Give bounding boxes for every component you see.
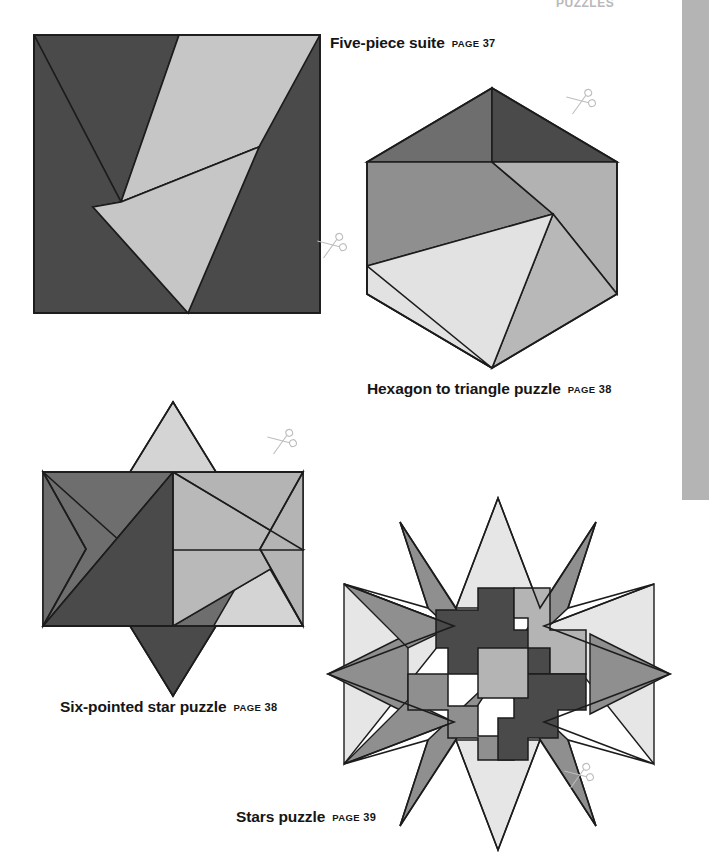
square-dissection-svg [33, 34, 321, 315]
page-edge-tab-lower [682, 500, 709, 860]
caption-page-number: 37 [483, 37, 496, 49]
figure-five-piece-suite [33, 34, 321, 315]
figure-hexagon-to-triangle [362, 84, 622, 372]
caption-title: Stars puzzle [236, 808, 325, 825]
running-head: PUZZLES [556, 0, 676, 8]
stars-dissection-svg [318, 488, 680, 860]
piece-star6-top-spike [130, 402, 216, 472]
caption-page-number: 39 [363, 811, 376, 823]
caption-six-pointed-star: Six-pointed star puzzlePAGE 38 [60, 698, 277, 716]
page-canvas: PUZZLES Five-piece suitePAGE 37 [0, 0, 709, 860]
caption-page-ref: PAGE 38 [568, 383, 612, 395]
caption-page-number: 38 [265, 701, 278, 713]
caption-title: Five-piece suite [330, 34, 445, 51]
inner-piece-center-light [478, 648, 528, 698]
piece-star6-bottom-spike [130, 626, 216, 696]
caption-page-number: 38 [599, 383, 612, 395]
caption-page-ref: PAGE 39 [332, 811, 376, 823]
page-edge-tab [682, 0, 709, 500]
caption-five-piece-suite: Five-piece suitePAGE 37 [330, 34, 495, 52]
figure-stars-puzzle [318, 488, 680, 860]
caption-page-ref: PAGE 37 [452, 37, 496, 49]
caption-stars-puzzle: Stars puzzlePAGE 39 [236, 808, 376, 826]
caption-title: Six-pointed star puzzle [60, 698, 227, 715]
caption-title: Hexagon to triangle puzzle [367, 380, 561, 397]
caption-page-ref: PAGE 38 [234, 701, 278, 713]
hexagon-dissection-svg [362, 84, 622, 372]
caption-hexagon-to-triangle: Hexagon to triangle puzzlePAGE 38 [367, 380, 612, 398]
